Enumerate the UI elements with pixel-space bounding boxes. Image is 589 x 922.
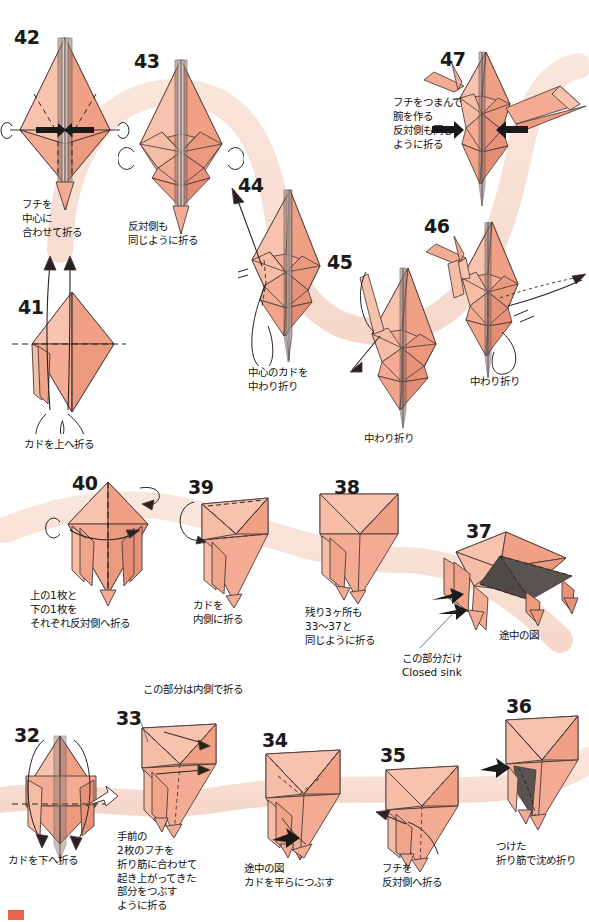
caption-step-42: フチを 中心に 合わせて折る: [22, 198, 82, 240]
caption-step-44: 中心のカドを 中わり折り: [248, 366, 308, 394]
caption-step-41: カドを上へ折る: [24, 438, 94, 452]
page-corner-marker: [8, 910, 24, 920]
caption-step-47: フチをつまんで 腕を作る 反対側も同じ ように折る: [393, 96, 462, 151]
caption-step-36: つけた 折り筋で沈め折り: [496, 840, 576, 868]
step-number-47: 47: [440, 50, 465, 69]
caption-step-37-midway: 途中の図: [499, 629, 539, 643]
figure-step-36: [478, 708, 589, 838]
figure-step-35: [364, 762, 476, 874]
figure-step-39: [164, 490, 294, 610]
caption-step-45: 中わり折り: [364, 432, 414, 446]
figure-step-34: [244, 748, 356, 868]
step-number-44: 44: [238, 176, 263, 195]
caption-step-46: 中わり折り: [470, 375, 520, 389]
caption-step-32: カドを下へ折る: [8, 854, 78, 868]
step-number-35: 35: [380, 746, 405, 765]
caption-step-33: 手前の 2枚のフチを 折り筋に合わせて 起き上がってきた 部分をつぶす ように折…: [117, 830, 197, 913]
step-number-40: 40: [72, 474, 97, 493]
step-number-42: 42: [14, 28, 39, 47]
caption-step-35: フチを 反対側へ折る: [382, 862, 442, 890]
step-number-45: 45: [327, 253, 352, 272]
figure-step-33: [112, 722, 232, 842]
caption-step-34: 途中の図 カドを平らにつぶす: [244, 862, 334, 890]
caption-step-43: 反対側も 同じように折る: [128, 220, 198, 248]
figure-step-46: [418, 222, 589, 382]
figure-step-38: [300, 486, 424, 610]
figure-step-44: [228, 186, 340, 366]
step-number-34: 34: [262, 731, 287, 750]
caption-step-40: 上の1枚と 下の1枚を それぞれ反対側へ折る: [30, 589, 130, 631]
caption-step-33-note: この部分は内側で折る: [143, 683, 243, 697]
step-number-41: 41: [18, 298, 43, 317]
figure-step-42: [0, 34, 130, 214]
caption-step-37: この部分だけ Closed sink: [402, 652, 462, 680]
step-number-38: 38: [334, 478, 359, 497]
step-number-37: 37: [466, 522, 491, 541]
step-number-39: 39: [188, 478, 213, 497]
caption-step-39: カドを 内側に折る: [193, 599, 243, 627]
step-number-46: 46: [424, 217, 449, 236]
caption-step-38: 残り3ヶ所も 33〜37と 同じように折る: [305, 606, 375, 648]
step-33-transition-arrow: [84, 786, 120, 812]
origami-instruction-page: 42 43 47 44 45 46 41 40 39 38 37 32 33 3…: [0, 0, 589, 922]
step-number-36: 36: [506, 697, 531, 716]
diagram-layer: [0, 0, 589, 922]
figure-step-41: [4, 254, 138, 434]
step-number-33: 33: [116, 709, 141, 728]
figure-step-43: [118, 56, 244, 238]
step-number-32: 32: [14, 726, 39, 745]
step-number-43: 43: [134, 52, 159, 71]
